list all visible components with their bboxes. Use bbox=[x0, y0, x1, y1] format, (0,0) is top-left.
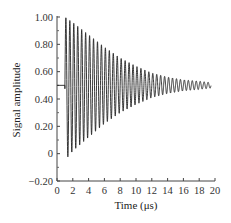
x-tick-label: 18 bbox=[194, 185, 205, 196]
x-tick-label: 16 bbox=[178, 185, 189, 196]
signal-line bbox=[57, 18, 211, 157]
x-tick-label: 6 bbox=[102, 185, 107, 196]
x-tick-label: 12 bbox=[147, 185, 158, 196]
y-tick-label: 0.80 bbox=[35, 39, 53, 50]
x-tick-label: 14 bbox=[162, 185, 173, 196]
x-tick-label: 4 bbox=[86, 185, 92, 196]
x-tick-label: 2 bbox=[70, 185, 75, 196]
x-tick-label: 0 bbox=[54, 185, 59, 196]
y-axis-label: Signal amplitude bbox=[10, 62, 22, 137]
y-ticks: −0.2000.200.400.600.801.00 bbox=[29, 12, 60, 187]
x-axis-label: Time (μs) bbox=[114, 199, 157, 212]
x-tick-label: 10 bbox=[131, 185, 142, 196]
y-tick-label: 0.20 bbox=[35, 121, 53, 132]
y-tick-label: 0 bbox=[48, 148, 53, 159]
y-tick-label: 0.60 bbox=[35, 66, 53, 77]
y-tick-label: −0.20 bbox=[29, 176, 53, 187]
y-tick-label: 0.40 bbox=[35, 94, 53, 105]
chart: −0.2000.200.400.600.801.00 0246810121416… bbox=[0, 0, 231, 223]
y-tick-label: 1.00 bbox=[35, 12, 53, 23]
x-tick-label: 20 bbox=[210, 185, 221, 196]
x-tick-label: 8 bbox=[118, 185, 123, 196]
